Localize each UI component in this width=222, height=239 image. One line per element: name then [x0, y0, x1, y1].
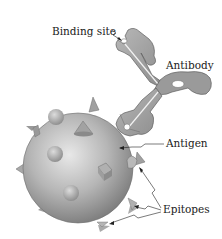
- epitope-leader-3: [111, 212, 161, 223]
- antibody: [116, 28, 211, 136]
- epitopes-label: Epitopes: [163, 203, 210, 215]
- antibody-antigen-diagram: Binding site Antibody Antigen Epitopes: [0, 0, 222, 239]
- binding-site-label: Binding site: [52, 25, 116, 37]
- label-antigen: Antigen: [119, 137, 208, 150]
- antigen-label: Antigen: [165, 137, 208, 149]
- label-antibody: Antibody: [165, 59, 214, 71]
- label-binding-site: Binding site: [52, 25, 122, 41]
- binding-site: [121, 39, 127, 43]
- epitope-leader-2: [136, 206, 161, 210]
- antibody-label: Antibody: [165, 59, 214, 71]
- antibody-upper-fab: [116, 28, 162, 87]
- epitope-right: [127, 156, 137, 168]
- epitope-leader-1: [140, 168, 161, 208]
